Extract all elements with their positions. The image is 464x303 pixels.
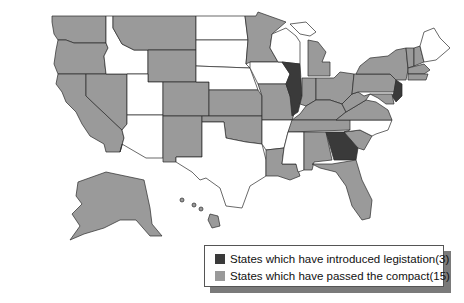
legend-label: States which have passed the compact — [230, 270, 429, 282]
state-wyoming — [148, 50, 196, 82]
state-oregon — [54, 40, 108, 74]
state-connecticut-ri — [408, 74, 428, 80]
state-alaska — [70, 172, 162, 240]
state-maine — [420, 28, 450, 62]
legend-count: (15) — [429, 270, 455, 282]
state-north-dakota — [196, 16, 248, 40]
state-colorado — [163, 82, 209, 116]
state-florida — [312, 160, 372, 220]
legend-item-passed: States which have passed the compact (15… — [215, 267, 443, 284]
state-washington — [52, 16, 106, 43]
legend-count: (3) — [435, 253, 455, 265]
hawaii-island-3 — [199, 207, 203, 211]
hawaii-island-1 — [180, 198, 184, 202]
state-kansas — [209, 90, 262, 116]
legend-item-introduced: States which have introduced legistation… — [215, 250, 443, 267]
state-pennsylvania — [352, 74, 396, 94]
state-tennessee — [288, 120, 356, 132]
state-hawaii — [208, 214, 220, 228]
state-new-mexico — [163, 116, 202, 162]
swatch-passed — [215, 271, 225, 281]
state-montana — [113, 16, 196, 50]
swatch-introduced — [215, 254, 225, 264]
legend-label: States which have introduced legistation — [230, 253, 435, 265]
state-south-dakota — [196, 40, 250, 68]
state-michigan — [308, 40, 330, 76]
hawaii-island-2 — [192, 203, 196, 207]
map-legend: States which have introduced legistation… — [204, 245, 444, 287]
